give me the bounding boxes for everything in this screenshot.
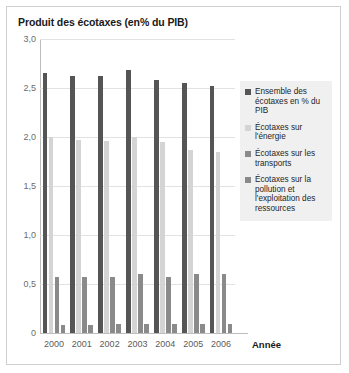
bar-group — [179, 39, 207, 333]
bar-group — [68, 39, 96, 333]
legend-item: Écotaxes sur la pollution et l'exploitat… — [245, 175, 328, 213]
plot-area — [40, 39, 235, 333]
y-axis-tick-label: 2,5 — [23, 83, 36, 93]
legend-swatch-icon — [245, 125, 251, 131]
bar — [76, 140, 81, 333]
y-axis-tick-label: 1,0 — [23, 230, 36, 240]
bar — [222, 274, 227, 333]
legend-swatch-icon — [245, 177, 251, 183]
x-axis-tick-label: 2005 — [179, 339, 207, 349]
legend-label: Ensemble des écotaxes en % du PIB — [255, 87, 328, 116]
y-axis-tick-labels: 00,51,01,52,02,53,0 — [11, 39, 36, 333]
legend-label: Écotaxes sur la pollution et l'exploitat… — [255, 175, 328, 213]
bar — [88, 325, 93, 333]
x-axis-tick-label: 2004 — [151, 339, 179, 349]
legend-item: Écotaxes sur l'énergie — [245, 123, 328, 142]
legend-item: Ensemble des écotaxes en % du PIB — [245, 87, 328, 116]
chart-legend: Ensemble des écotaxes en % du PIBÉcotaxe… — [240, 81, 332, 221]
bar — [154, 80, 159, 333]
bar — [116, 324, 121, 333]
x-axis-title: Année — [252, 339, 281, 350]
legend-label: Écotaxes sur l'énergie — [255, 123, 328, 142]
bar — [126, 70, 131, 333]
bar — [216, 152, 221, 333]
bar-group — [151, 39, 179, 333]
y-axis-tick-label: 0 — [31, 328, 36, 338]
bar-group — [40, 39, 68, 333]
bar — [228, 324, 233, 333]
bar — [144, 324, 149, 333]
bar — [138, 274, 143, 333]
x-axis-tick-label: 2006 — [207, 339, 235, 349]
bar — [70, 76, 75, 333]
x-axis-tick-label: 2003 — [124, 339, 152, 349]
bar-group — [207, 39, 235, 333]
bar — [43, 73, 48, 333]
legend-label: Écotaxes sur les transports — [255, 149, 328, 168]
x-axis-tick-label: 2001 — [68, 339, 96, 349]
y-axis-tick-label: 0,5 — [23, 279, 36, 289]
legend-item: Écotaxes sur les transports — [245, 149, 328, 168]
legend-swatch-icon — [245, 151, 251, 157]
bar — [194, 274, 199, 333]
bar — [49, 137, 54, 333]
bar — [55, 277, 60, 333]
bar — [132, 137, 137, 333]
bar — [188, 150, 193, 333]
bar-group — [96, 39, 124, 333]
chart-title: Produit des écotaxes (en% du PIB) — [18, 16, 188, 28]
bar — [160, 142, 165, 333]
x-axis-line — [40, 333, 248, 334]
bar — [200, 324, 205, 333]
bar — [166, 277, 171, 333]
bar — [82, 277, 87, 333]
x-axis-tick-label: 2000 — [40, 339, 68, 349]
bar — [182, 83, 187, 333]
y-axis-tick-label: 3,0 — [23, 34, 36, 44]
y-axis-tick-label: 2,0 — [23, 132, 36, 142]
x-axis-tick-label: 2002 — [96, 339, 124, 349]
bar — [110, 277, 115, 333]
bar — [98, 76, 103, 333]
bar — [172, 324, 177, 333]
y-axis-tick-label: 1,5 — [23, 181, 36, 191]
bar — [210, 86, 215, 333]
chart-figure: Produit des écotaxes (en% du PIB) 00,51,… — [6, 6, 341, 365]
bar-group — [124, 39, 152, 333]
bar — [61, 325, 66, 333]
legend-swatch-icon — [245, 89, 251, 95]
bar — [104, 141, 109, 333]
